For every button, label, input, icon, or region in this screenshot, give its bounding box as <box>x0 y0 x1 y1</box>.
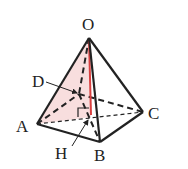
label-b: B <box>94 146 105 165</box>
edge-b-c <box>100 112 143 142</box>
label-h: H <box>55 144 67 163</box>
pyramid-diagram: O D A C H B <box>0 0 188 169</box>
edge-o-c <box>89 38 143 112</box>
label-c: C <box>148 104 159 123</box>
label-d: D <box>32 72 44 91</box>
edge-a-b <box>37 124 100 142</box>
label-o: O <box>82 15 94 34</box>
label-a: A <box>16 117 29 136</box>
arrow-to-h <box>72 120 88 146</box>
